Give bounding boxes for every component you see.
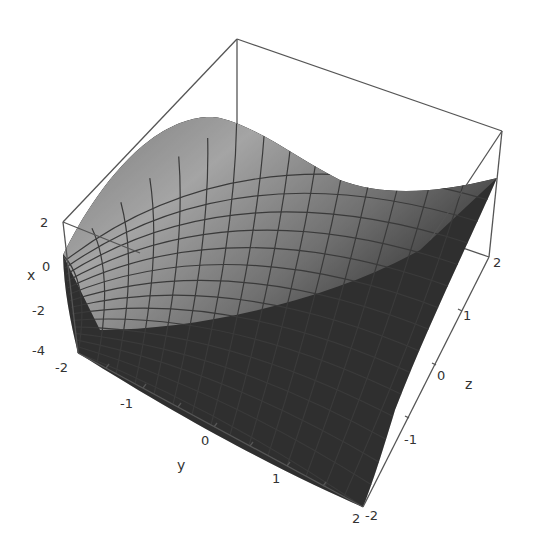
x-tick-minus4: -4 — [32, 343, 45, 358]
z-tick-1: 1 — [463, 308, 471, 323]
x-axis-label: x — [27, 267, 35, 283]
y-axis-label: y — [177, 457, 185, 473]
y-tick-2: 2 — [352, 511, 360, 526]
z-axis-label: z — [465, 376, 472, 392]
x-tick-minus2: -2 — [32, 303, 45, 318]
x-tick-0: 0 — [42, 259, 50, 274]
y-tick-minus2: -2 — [55, 360, 68, 375]
x-axis: 2 0 -2 -4 x — [27, 215, 50, 358]
z-tick-2: 2 — [493, 255, 501, 270]
z-tick-minus2: -2 — [365, 508, 378, 523]
y-tick-1: 1 — [272, 471, 280, 486]
x-tick-2: 2 — [40, 215, 48, 230]
y-tick-minus1: -1 — [120, 396, 133, 411]
y-tick-0: 0 — [201, 433, 209, 448]
saddle-surface — [60, 107, 510, 510]
z-tick-0: 0 — [437, 368, 445, 383]
z-tick-minus1: -1 — [404, 432, 417, 447]
surface-plot: 2 0 -2 -4 x -2 -1 0 1 2 y -2 -1 0 1 2 z — [0, 0, 534, 554]
